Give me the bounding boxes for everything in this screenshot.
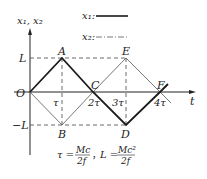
y-tick-L: L <box>18 52 26 65</box>
formula-L-num: Mc² <box>117 145 136 155</box>
formula: τ = Mc 2f ， L = Mc² 2f <box>57 145 136 166</box>
point-F: F <box>156 79 165 92</box>
y-tick-negL: −L <box>12 119 29 132</box>
point-C: C <box>91 79 100 92</box>
x-tick-2tau: 2τ <box>87 97 100 108</box>
y-axis-label: x₁, x₂ <box>17 15 43 26</box>
formula-tau-num: Mc <box>75 145 90 155</box>
formula-tau-den: 2f <box>76 156 88 166</box>
point-E: E <box>121 45 130 58</box>
y-axis-arrow <box>28 28 32 35</box>
t-axis-arrow <box>189 90 196 94</box>
legend-x2-label: x₂: <box>82 31 95 42</box>
x-tick-tau: τ <box>53 97 59 108</box>
x-tick-4tau: 4τ <box>153 97 166 108</box>
point-A: A <box>57 45 66 58</box>
point-B: B <box>57 128 66 141</box>
formula-L-lhs: L = <box>99 149 118 160</box>
point-D: D <box>120 128 130 141</box>
t-axis-label: t <box>190 95 195 108</box>
x-tick-3tau: 3τ <box>112 97 124 108</box>
formula-tau-lhs: τ = <box>57 149 74 160</box>
formula-L-den: 2f <box>120 156 132 166</box>
origin-label: O <box>16 87 25 100</box>
legend-x1-label: x₁: <box>82 10 95 21</box>
displacement-diagram: x₁: x₂: x₁, x₂ t O L −L τ 2τ 3τ 4τ A B C… <box>0 0 207 179</box>
